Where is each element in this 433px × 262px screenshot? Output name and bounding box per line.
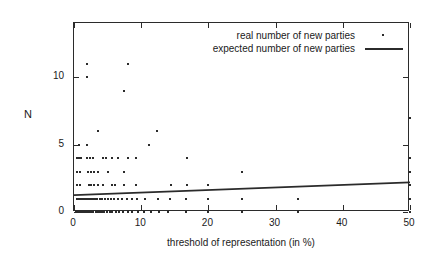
legend-marker-line-icon — [364, 43, 404, 54]
legend-label: real number of new parties — [237, 30, 355, 41]
x-tick-label: 0 — [53, 217, 93, 229]
y-tick-label: 10 — [38, 70, 64, 81]
legend-dot-icon — [382, 34, 384, 36]
legend-marker-dot-icon — [364, 30, 404, 41]
x-tick-label: 40 — [322, 217, 362, 229]
x-axis-tick-top — [410, 23, 411, 28]
y-axis-tick-right — [403, 212, 408, 213]
scatter-chart-figure: N 01020304050 0510 threshold of represen… — [0, 0, 433, 262]
x-tick-label: 20 — [187, 217, 227, 229]
x-axis-label: threshold of representation (in %) — [73, 237, 409, 248]
legend-label: expected number of new parties — [213, 43, 355, 54]
x-axis-tick — [410, 205, 411, 210]
legend-line-icon — [365, 48, 403, 50]
x-tick-label: 10 — [120, 217, 160, 229]
y-axis-label: N — [16, 108, 40, 120]
y-tick-label: 0 — [38, 205, 64, 216]
x-tick-label: 30 — [255, 217, 295, 229]
legend-entry: real number of new parties — [196, 29, 404, 42]
x-tick-label: 50 — [389, 217, 429, 229]
legend-entry: expected number of new parties — [196, 42, 404, 55]
y-tick-label: 5 — [38, 138, 64, 149]
chart-legend: real number of new partiesexpected numbe… — [196, 29, 404, 55]
